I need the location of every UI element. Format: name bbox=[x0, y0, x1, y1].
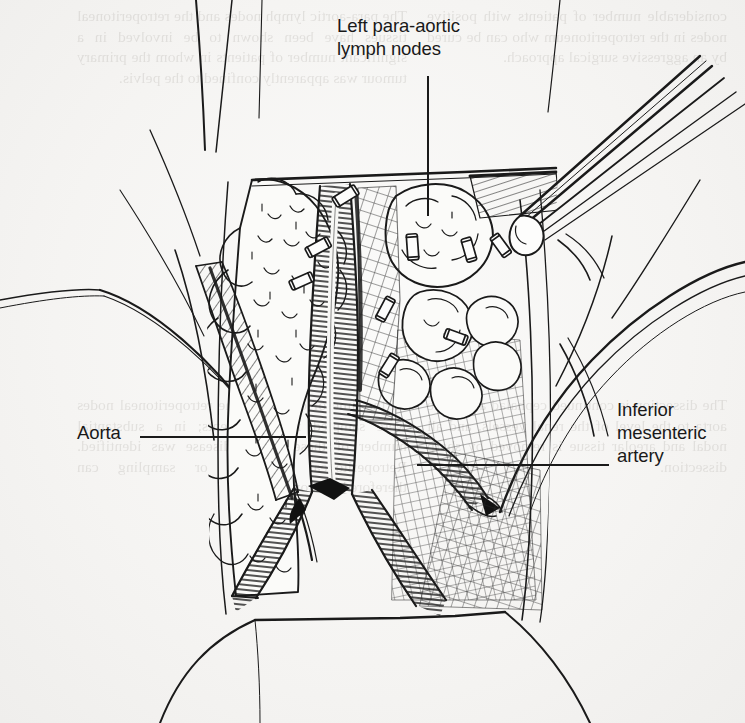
leader-line-left-para-aortic-lymph-nodes bbox=[427, 76, 429, 216]
scanned-page: considerable number of patients with pos… bbox=[0, 0, 745, 723]
surgical-line-art-illustration bbox=[0, 0, 745, 723]
label-inferior-mesenteric-artery: Inferior mesenteric artery bbox=[617, 398, 706, 467]
left-field-margin bbox=[218, 182, 228, 614]
leader-line-inferior-mesenteric-artery bbox=[417, 464, 609, 466]
lower-drape bbox=[160, 612, 590, 723]
leader-line-aorta bbox=[140, 436, 306, 438]
aorta bbox=[309, 184, 358, 494]
label-left-para-aortic-lymph-nodes: Left para-aortic lymph nodes bbox=[337, 14, 460, 60]
upper-right-hatched-band bbox=[470, 172, 560, 218]
label-aorta: Aorta bbox=[77, 421, 121, 444]
